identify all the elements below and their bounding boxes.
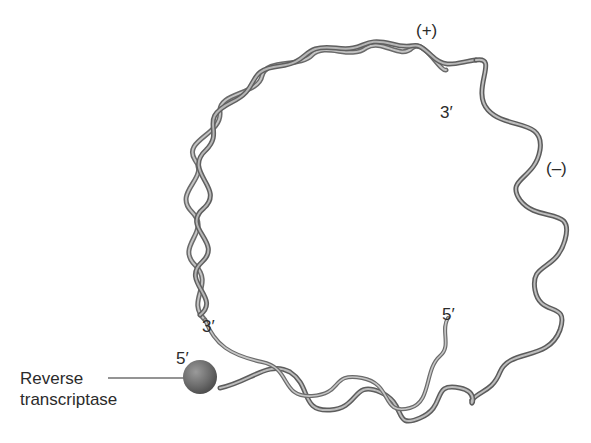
- double-stranded-region-lower: [205, 318, 473, 421]
- reverse-transcriptase-callout: Reverse transcriptase: [20, 368, 117, 410]
- plus-strand-3prime-label: 3′: [440, 104, 453, 121]
- double-stranded-region-upper: [186, 42, 476, 320]
- plus-strand-label: (+): [416, 22, 437, 39]
- callout-line-2: transcriptase: [20, 389, 117, 410]
- single-stranded-region-right: [472, 60, 567, 400]
- minus-strand-3prime-label: 3′: [202, 318, 215, 335]
- plus-strand-5prime-label: 5′: [442, 306, 455, 323]
- callout-line-1: Reverse: [20, 368, 117, 389]
- diagram-canvas: (+) 3′ (–) 3′ 5′ 5′ Reverse transcriptas…: [0, 0, 591, 443]
- minus-strand-label: (–): [546, 160, 567, 177]
- minus-strand-5prime-label: 5′: [176, 350, 189, 367]
